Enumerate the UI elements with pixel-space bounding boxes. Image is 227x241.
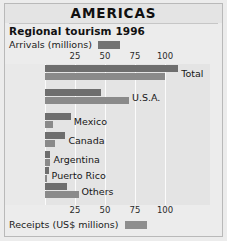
bar-receipts-4 [45,159,50,166]
infographic-figure: AMERICAS Regional tourism 1996 Arrivals … [0,0,227,241]
legend-swatch-receipts-icon [125,221,147,229]
tick-top-50: 50 [100,52,111,61]
bar-group-u-s-a [45,89,210,105]
category-label-argentina: Argentina [53,155,99,165]
bar-arrivals-6 [45,183,67,190]
tick-bottom-100: 100 [157,206,173,215]
bar-arrivals-2 [45,113,71,120]
legend-receipts-label: Receipts (US$ millions) [9,220,119,230]
axis-bottom: 255075100 [0,206,227,216]
tick-bottom-75: 75 [130,206,141,215]
legend-swatch-arrivals-icon [98,41,120,49]
page-title: AMERICAS [71,7,157,21]
bar-receipts-2 [45,121,53,128]
category-label-puerto-rico: Puerto Rico [52,171,106,181]
bar-receipts-0 [45,73,165,80]
bar-arrivals-3 [45,132,65,139]
bar-group-others [45,183,210,199]
bar-receipts-1 [45,97,129,104]
title-divider [9,23,218,24]
tick-bottom-25: 25 [70,206,81,215]
bar-arrivals-5 [45,167,49,174]
tick-top-75: 75 [130,52,141,61]
bar-receipts-5 [45,175,47,182]
category-label-canada: Canada [68,136,104,146]
title-band: AMERICAS [5,4,222,23]
tick-top-100: 100 [157,52,173,61]
tick-bottom-50: 50 [100,206,111,215]
bar-receipts-6 [45,191,79,198]
category-label-u-s-a: U.S.A. [132,93,160,103]
plot-left-gutter [5,64,45,205]
bar-arrivals-1 [45,89,101,96]
chart-subtitle: Regional tourism 1996 [9,25,145,37]
category-label-mexico: Mexico [74,117,107,127]
category-label-others: Others [82,187,114,197]
category-label-total: Total [181,69,203,79]
bar-arrivals-4 [45,151,50,158]
legend-arrivals: Arrivals (millions) [9,40,120,50]
legend-receipts: Receipts (US$ millions) [9,220,147,230]
axis-top: 255075100 [0,52,227,62]
bar-arrivals-0 [45,65,178,72]
bar-group-mexico [45,113,210,129]
tick-top-25: 25 [70,52,81,61]
bar-receipts-3 [45,140,55,147]
legend-arrivals-label: Arrivals (millions) [9,40,92,50]
